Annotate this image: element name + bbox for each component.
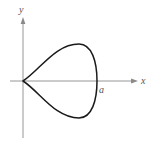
intercept-label-a: a bbox=[99, 84, 104, 95]
y-axis-label: y bbox=[18, 4, 24, 15]
y-axis-arrow-icon bbox=[21, 17, 26, 24]
x-axis-label: x bbox=[140, 75, 146, 86]
x-axis bbox=[10, 79, 138, 84]
teardrop-curve-diagram: x y a bbox=[0, 0, 155, 142]
y-axis bbox=[21, 17, 26, 138]
x-axis-arrow-icon bbox=[131, 79, 138, 84]
